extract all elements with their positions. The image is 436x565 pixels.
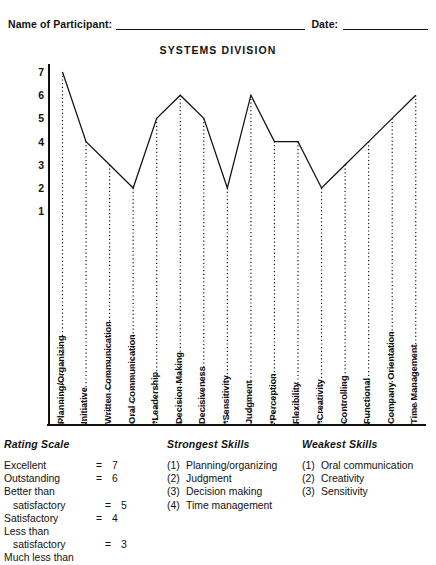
rating-scale-name: Satisfactory xyxy=(4,512,96,525)
weakest-skill-item: (2)Creativity xyxy=(302,472,436,485)
rating-scale-equals xyxy=(96,551,112,564)
category-label-15: Time Management xyxy=(410,345,419,424)
strongest-skill-label: Judgment xyxy=(186,473,232,484)
rating-scale-row: Much less than xyxy=(4,551,156,564)
rating-scale-value: 4 xyxy=(112,512,118,525)
rating-scale-heading: Rating Scale xyxy=(4,438,156,450)
rating-scale-row: satisfactory=3 xyxy=(4,538,156,551)
rating-scale-name: Much less than xyxy=(4,551,96,564)
weakest-skill-number: (3) xyxy=(302,485,321,498)
page-title: SYSTEMS DIVISION xyxy=(0,44,436,56)
rating-scale-value: 6 xyxy=(112,472,118,485)
date-label: Date: xyxy=(311,18,338,30)
strongest-skill-item: (3)Decision making xyxy=(167,485,293,498)
strongest-skill-label: Decision making xyxy=(186,486,262,497)
rating-scale-equals: = xyxy=(105,538,121,551)
strongest-skill-number: (3) xyxy=(167,485,186,498)
rating-scale-column: Rating Scale Excellent=7Outstanding=6Bet… xyxy=(4,438,156,565)
rating-scale-equals: = xyxy=(96,512,112,525)
rating-scale-value: 7 xyxy=(112,459,118,472)
weakest-skills-heading: Weakest Skills xyxy=(302,438,436,450)
strongest-skill-number: (1) xyxy=(167,459,186,472)
category-label-14: Company Orientation xyxy=(387,331,396,424)
category-label-11: *Creativity xyxy=(316,379,325,424)
category-label-7: *Sensitivity xyxy=(222,375,231,424)
rating-scale-row: satisfactory=5 xyxy=(4,499,156,512)
rating-scale-name: Better than xyxy=(4,485,96,498)
legend-area: Rating Scale Excellent=7Outstanding=6Bet… xyxy=(0,438,436,554)
category-label-2: Written Communication xyxy=(104,321,113,424)
weakest-skills-column: Weakest Skills (1)Oral communication(2)C… xyxy=(296,438,436,499)
weakest-skill-number: (1) xyxy=(302,459,321,472)
weakest-skill-label: Oral communication xyxy=(321,460,413,471)
category-label-13: Functional xyxy=(363,378,372,424)
rating-scale-equals xyxy=(96,485,112,498)
strongest-skills-list: (1)Planning/organizing(2)Judgment(3)Deci… xyxy=(163,459,293,512)
rating-scale-row: Satisfactory=4 xyxy=(4,512,156,525)
rating-scale-name: satisfactory xyxy=(4,538,105,551)
strongest-skill-label: Time management xyxy=(186,500,272,511)
category-label-1: Initiative xyxy=(80,387,89,424)
strongest-skills-column: Strongest Skills (1)Planning/organizing(… xyxy=(163,438,293,512)
weakest-skill-label: Sensitivity xyxy=(321,486,368,497)
participant-name-field[interactable] xyxy=(116,17,305,30)
category-label-8: Judgment xyxy=(245,380,254,424)
rating-scale-row: Less than xyxy=(4,525,156,538)
rating-scale-name: satisfactory xyxy=(4,499,105,512)
weakest-skill-number: (2) xyxy=(302,472,321,485)
rating-scale-value: 5 xyxy=(121,499,127,512)
strongest-skill-number: (2) xyxy=(167,472,186,485)
rating-scale-equals xyxy=(96,525,112,538)
weakest-skills-list: (1)Oral communication(2)Creativity(3)Sen… xyxy=(296,459,436,499)
strongest-skills-heading: Strongest Skills xyxy=(167,438,293,450)
rating-scale-name: Less than xyxy=(4,525,96,538)
category-label-9: *Perception xyxy=(269,373,278,424)
strongest-skill-item: (1)Planning/organizing xyxy=(167,459,293,472)
rating-scale-row: Excellent=7 xyxy=(4,459,156,472)
rating-scale-name: Excellent xyxy=(4,459,96,472)
date-field[interactable] xyxy=(343,17,428,30)
participant-name-label: Name of Participant: xyxy=(8,18,112,30)
strongest-skill-label: Planning/organizing xyxy=(186,460,277,471)
skills-profile-chart: 7654321 Planning/OrganizingInitiativeWri… xyxy=(0,60,436,432)
rating-scale-equals: = xyxy=(105,499,121,512)
category-label-10: Flexibility xyxy=(292,382,301,424)
weakest-skill-label: Creativity xyxy=(321,473,364,484)
category-label-6: Decisiveness xyxy=(198,366,207,424)
form-header: Name of Participant: Date: xyxy=(8,12,428,30)
strongest-skill-item: (4)Time management xyxy=(167,499,293,512)
rating-scale-list: Excellent=7Outstanding=6Better thansatis… xyxy=(4,459,156,565)
category-label-3: Oral Communication xyxy=(128,334,137,424)
rating-scale-name: Outstanding xyxy=(4,472,96,485)
weakest-skill-item: (1)Oral communication xyxy=(302,459,436,472)
category-labels: Planning/OrganizingInitiativeWritten Com… xyxy=(0,60,436,432)
rating-scale-equals: = xyxy=(96,459,112,472)
category-label-0: Planning/Organizing xyxy=(57,336,66,425)
strongest-skill-item: (2)Judgment xyxy=(167,472,293,485)
category-label-4: *Leadership xyxy=(151,372,160,424)
rating-scale-equals: = xyxy=(96,472,112,485)
strongest-skill-number: (4) xyxy=(167,499,186,512)
category-label-5: Decision Making xyxy=(175,352,184,424)
rating-scale-row: Outstanding=6 xyxy=(4,472,156,485)
rating-scale-value: 3 xyxy=(121,538,127,551)
category-label-12: Controlling xyxy=(340,376,349,424)
weakest-skill-item: (3)Sensitivity xyxy=(302,485,436,498)
rating-scale-row: Better than xyxy=(4,485,156,498)
